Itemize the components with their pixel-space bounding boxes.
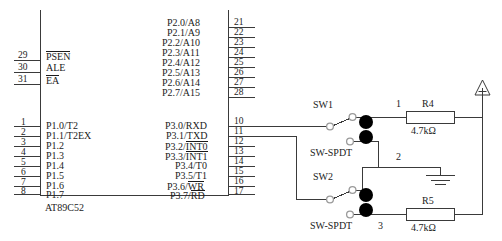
sw2-type-label: SW-SPDT [310,221,352,231]
sw2-contact-dot-upper [359,188,373,202]
pin-label-ea: EA [46,75,59,86]
r4-body [406,112,454,124]
pin-label-p3-7: P3.7/RD [170,190,205,201]
pin-number-13: 13 [234,146,244,156]
node-label-1: 1 [396,99,401,109]
pin-number-23: 23 [234,37,244,47]
sw1-pole-terminal [327,123,334,130]
pin-number-30: 30 [18,62,28,72]
pin-number-16: 16 [234,176,244,186]
r5-body [406,209,454,221]
pin-number-21: 21 [234,17,244,27]
chip-part-number: AT89C52 [45,203,84,213]
pin-number-28: 28 [234,87,244,97]
sw1-designator: SW1 [313,100,333,110]
pin-number-26: 26 [234,67,244,77]
pin-number-15: 15 [234,166,244,176]
sw1-contact-dot-lower [359,130,373,144]
pin-number-11: 11 [234,126,243,136]
pin-label-p1-7: P1.7 [46,190,64,200]
node-label-2: 2 [396,152,401,162]
pin-number-5: 5 [21,157,26,167]
pin-number-12: 12 [234,136,244,146]
r4-designator: R4 [422,99,434,109]
pin-number-3: 3 [21,137,26,147]
pin-number-14: 14 [234,156,244,166]
pin-number-2: 2 [21,127,26,137]
pin-number-31: 31 [18,74,28,84]
pin-number-25: 25 [234,57,244,67]
r5-designator: R5 [422,196,434,206]
sw2-throw-b-terminal [347,211,354,218]
r4-value: 4.7kΩ [411,126,436,136]
node-label-3: 3 [378,221,383,231]
pin-number-17: 17 [234,186,244,196]
sw1-throw-b-terminal [347,138,354,145]
sw2-throw-a-terminal [349,187,356,194]
pin-number-24: 24 [234,47,244,57]
sw2-designator: SW2 [313,172,333,182]
net-sw1-lower-throw-to-node2 [351,142,379,168]
sw2-lever [331,191,352,200]
sw1-lever [331,118,352,127]
sw1-contact-dot-upper [359,115,373,129]
sw2-contact-dot-lower [359,203,373,217]
pin-number-6: 6 [21,167,26,177]
sw1-throw-a-terminal [349,114,356,121]
pin-label-p2-7: P2.7/A15 [162,88,200,98]
circuit-diagram-canvas: 29 30 31 PSEN ALE EA 1 2 3 4 5 6 7 8 P1.… [0,0,502,241]
pin-number-8: 8 [21,186,26,196]
r5-value: 4.7kΩ [411,223,436,233]
net-sw2-upper-throw-to-node2 [352,168,379,191]
pin-label-p3-5: P3.5/T1 [175,171,207,181]
pin-label-p3-1: P3.1/TXD [166,131,207,141]
sw2-pole-terminal [327,196,334,203]
pin-number-29: 29 [18,50,28,60]
pin-label-ale: ALE [46,63,65,73]
pin-number-10: 10 [234,116,244,126]
pin-number-22: 22 [234,27,244,37]
pin-label-psen: PSEN [46,51,70,62]
pin-number-27: 27 [234,77,244,87]
pin-number-1: 1 [21,117,26,127]
pin-number-4: 4 [21,147,26,157]
sw1-type-label: SW-SPDT [310,148,352,158]
